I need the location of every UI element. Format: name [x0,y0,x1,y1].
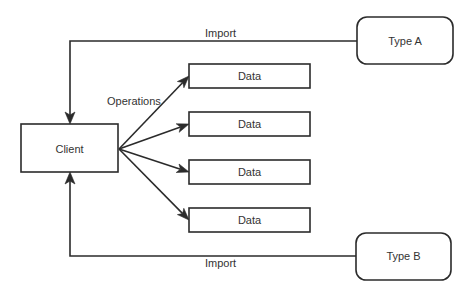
node-data-label: Data [238,166,262,178]
node-data-label: Data [238,70,262,82]
node-type-a[interactable]: Type A [357,17,453,64]
edge-label-import-bottom: Import [205,257,236,269]
edge-operations-line-1 [119,82,183,149]
edge-operations-line-2 [119,127,181,149]
node-data-2[interactable]: Data [189,112,310,136]
node-client-label: Client [55,143,83,155]
node-data-label: Data [238,214,262,226]
node-data-label: Data [238,118,262,130]
node-client[interactable]: Client [21,124,118,172]
node-data-3[interactable]: Data [189,160,310,184]
node-data-4[interactable]: Data [189,208,310,232]
node-type-a-label: Type A [388,35,422,47]
edge-label-import-top: Import [205,27,236,39]
diagram-canvas: Import Import Operations Client Data Dat… [0,0,472,298]
node-data-1[interactable]: Data [189,64,310,88]
node-type-b-label: Type B [386,250,420,262]
edge-label-operations: Operations [107,95,161,107]
node-type-b[interactable]: Type B [356,233,451,280]
